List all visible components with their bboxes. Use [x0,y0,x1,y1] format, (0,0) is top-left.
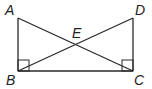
label-b: B [6,72,15,88]
label-e: E [72,25,82,41]
geometry-diagram: A D B C E [0,0,152,89]
label-d: D [135,2,145,18]
label-a: A [4,2,14,18]
right-angle-c-icon [122,60,133,71]
label-c: C [134,72,145,88]
right-angle-b-icon [18,60,29,71]
